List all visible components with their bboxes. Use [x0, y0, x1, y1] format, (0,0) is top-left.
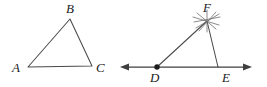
segment-fe	[207, 21, 218, 67]
segment-df	[157, 21, 207, 67]
vertex-label-a: A	[11, 60, 20, 75]
geometry-figure-canvas: Geometry figure: triangle ABC and constr…	[0, 0, 267, 87]
point-d-dot	[154, 64, 159, 69]
left-arrowhead-icon	[120, 64, 129, 71]
right-arrowhead-icon	[243, 64, 252, 71]
triangle-abc-group: A B C	[11, 1, 105, 75]
vertex-label-b: B	[66, 1, 74, 16]
triangle-dfe-group: D E F	[120, 0, 252, 85]
vertex-label-c: C	[96, 60, 105, 75]
vertex-label-d: D	[149, 70, 160, 85]
vertex-label-f: F	[202, 0, 212, 15]
vertex-label-e: E	[221, 70, 230, 85]
triangle-abc-outline	[28, 19, 92, 67]
geometry-figure-svg: Geometry figure: triangle ABC and constr…	[0, 0, 267, 87]
